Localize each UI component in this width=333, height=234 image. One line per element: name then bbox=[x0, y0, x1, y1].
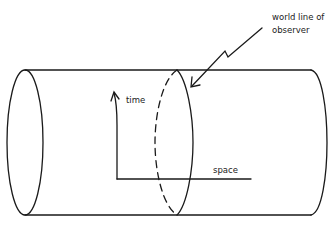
right-end-arc bbox=[311, 70, 327, 215]
world-line-label-line2: observer bbox=[272, 24, 324, 37]
time-axis bbox=[114, 93, 117, 179]
world-line-label-line1: world line of bbox=[272, 11, 324, 24]
left-end-ellipse bbox=[7, 70, 43, 215]
time-label: time bbox=[126, 96, 145, 105]
callout-zigzag-arrow bbox=[192, 28, 262, 86]
space-label: space bbox=[213, 166, 238, 175]
world-line-label: world line of observer bbox=[272, 11, 324, 37]
world-line-solid-front bbox=[177, 70, 193, 215]
world-line-dashed-back bbox=[155, 70, 177, 215]
